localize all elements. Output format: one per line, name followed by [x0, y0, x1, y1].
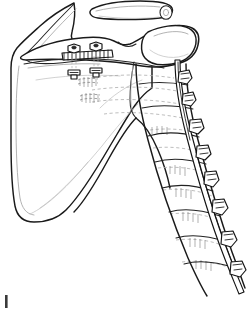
anatomy-illustration	[0, 0, 247, 313]
figure-root: Scapula, clavicle, rib cage and spinal c…	[0, 0, 247, 313]
plate-screw-head-2[interactable]	[90, 42, 102, 51]
corner-tick-mark	[5, 295, 8, 308]
clavicle-cut-end	[160, 6, 172, 20]
plate-screw-head-1[interactable]	[68, 44, 80, 53]
